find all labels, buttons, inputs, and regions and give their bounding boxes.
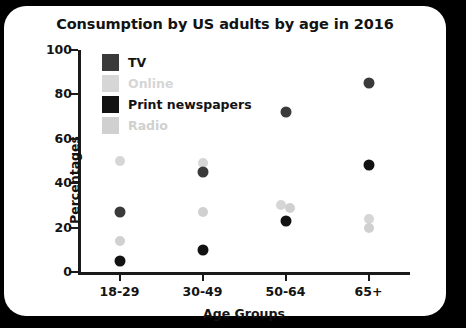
legend-item: TV bbox=[102, 52, 252, 73]
data-point bbox=[364, 223, 374, 233]
y-axis-tick-label: 20 bbox=[32, 220, 72, 235]
data-point bbox=[197, 167, 208, 178]
legend-label: TV bbox=[128, 55, 146, 70]
x-axis-tick bbox=[285, 272, 287, 281]
legend-item: Radio bbox=[102, 115, 252, 136]
chart-legend: TVOnlinePrint newspapersRadio bbox=[102, 52, 252, 136]
legend-swatch bbox=[102, 117, 119, 134]
x-axis-tick-label: 30-49 bbox=[155, 284, 251, 299]
y-axis-tick-label: 40 bbox=[32, 175, 72, 190]
data-point bbox=[363, 78, 374, 89]
data-point bbox=[363, 160, 374, 171]
x-axis-tick bbox=[368, 272, 370, 281]
legend-item: Print newspapers bbox=[102, 94, 252, 115]
legend-label: Print newspapers bbox=[128, 97, 252, 112]
data-point bbox=[197, 244, 208, 255]
legend-item: Online bbox=[102, 73, 252, 94]
data-point bbox=[115, 156, 125, 166]
chart-card: Consumption by US adults by age in 2016 … bbox=[4, 6, 446, 316]
x-axis-tick-label: 18-29 bbox=[72, 284, 168, 299]
x-axis-tick bbox=[202, 272, 204, 281]
legend-label: Online bbox=[128, 76, 173, 91]
x-axis-tick-label: 50-64 bbox=[238, 284, 334, 299]
y-axis-tick-label: 60 bbox=[32, 131, 72, 146]
data-point bbox=[280, 107, 291, 118]
legend-swatch bbox=[102, 54, 119, 71]
y-axis-tick-label: 0 bbox=[32, 264, 72, 279]
data-point bbox=[280, 215, 291, 226]
chart-screenshot: Consumption by US adults by age in 2016 … bbox=[0, 0, 466, 328]
x-axis-title: Age Groups bbox=[78, 306, 410, 321]
data-point bbox=[114, 207, 125, 218]
x-axis-tick bbox=[119, 272, 121, 281]
x-axis-line bbox=[78, 272, 410, 275]
legend-swatch bbox=[102, 75, 119, 92]
y-axis-tick-label: 100 bbox=[32, 42, 72, 57]
data-point bbox=[114, 255, 125, 266]
y-axis-tick-label: 80 bbox=[32, 86, 72, 101]
chart-title: Consumption by US adults by age in 2016 bbox=[4, 16, 446, 32]
data-point bbox=[285, 203, 295, 213]
data-point bbox=[198, 207, 208, 217]
x-axis-tick-label: 65+ bbox=[321, 284, 417, 299]
data-point bbox=[115, 236, 125, 246]
legend-swatch bbox=[102, 96, 119, 113]
legend-label: Radio bbox=[128, 118, 168, 133]
